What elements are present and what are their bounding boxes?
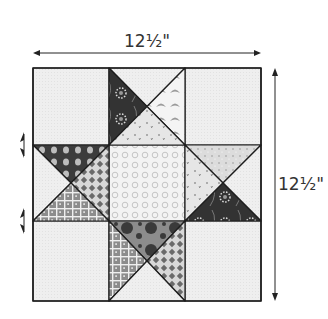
seam-arrow-down-icon bbox=[20, 224, 24, 234]
cell-bottom-center bbox=[109, 221, 185, 301]
arrow-down-icon bbox=[272, 293, 278, 301]
quilt-block-diagram: 12½" 12½" bbox=[0, 0, 328, 319]
width-label: 12½" bbox=[124, 31, 170, 51]
cell-top-center bbox=[109, 68, 185, 145]
cell-top-right bbox=[185, 68, 261, 145]
quilt-block bbox=[33, 68, 261, 301]
width-dimension: 12½" bbox=[33, 31, 261, 56]
cell-bottom-left bbox=[33, 221, 109, 301]
arrow-right-icon bbox=[254, 50, 261, 56]
arrow-left-icon bbox=[33, 50, 40, 56]
cell-top-left bbox=[33, 68, 109, 145]
height-dimension: 12½" bbox=[272, 68, 324, 301]
seam-arrow-down-icon bbox=[20, 148, 24, 158]
cell-middle-right bbox=[185, 145, 261, 221]
seam-arrow-up-icon bbox=[20, 208, 24, 218]
seam-arrows bbox=[20, 132, 24, 234]
height-label: 12½" bbox=[278, 174, 324, 194]
cell-center bbox=[109, 145, 185, 221]
cell-middle-left bbox=[33, 145, 109, 221]
seam-arrow-up-icon bbox=[20, 132, 24, 142]
arrow-up-icon bbox=[272, 68, 278, 76]
cell-bottom-right bbox=[185, 221, 261, 301]
